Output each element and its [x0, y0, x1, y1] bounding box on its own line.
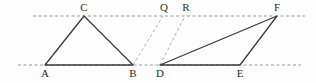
vertex-label-c: C	[80, 2, 87, 13]
vertex-label-d: D	[156, 68, 164, 79]
dashed-line-d-r	[160, 16, 185, 65]
vertex-label-f: F	[274, 2, 280, 13]
vertex-label-q: Q	[160, 2, 168, 13]
vertex-label-a: A	[41, 68, 49, 79]
triangle-def	[160, 16, 277, 65]
geometry-figure: A B C D E F Q R	[0, 0, 316, 83]
triangle-abc	[45, 16, 133, 65]
vertex-label-r: R	[182, 2, 189, 13]
dashed-line-b-q	[133, 16, 163, 65]
vertex-label-b: B	[129, 68, 136, 79]
vertex-label-e: E	[237, 68, 244, 79]
